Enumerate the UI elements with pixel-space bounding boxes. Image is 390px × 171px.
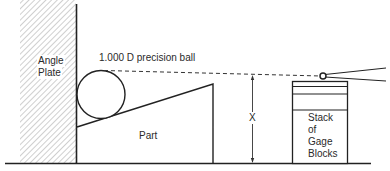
gage-stack-label-line3: Gage — [308, 136, 332, 148]
angle-plate — [20, 0, 76, 163]
dimension-arrow-top — [251, 75, 254, 80]
part-label: Part — [139, 130, 157, 142]
angle-plate-label-line2: Plate — [37, 67, 62, 79]
dimension-x-label: X — [249, 112, 256, 124]
dimension-arrow-bottom — [251, 158, 254, 163]
gage-stack-label-line4: Blocks — [308, 148, 337, 160]
indicator-arm-lower — [325, 77, 386, 81]
gage-stack-label-line2: of — [308, 124, 316, 136]
precision-ball-label: 1.000 D precision ball — [99, 52, 195, 64]
reference-dashed-line — [104, 71, 321, 77]
precision-ball — [77, 71, 125, 119]
indicator-arm-upper — [325, 68, 386, 75]
indicator-ball-tip — [320, 73, 326, 79]
gage-stack-label-line1: Stack — [308, 112, 333, 124]
angle-plate-label-line1: Angle — [37, 55, 65, 67]
